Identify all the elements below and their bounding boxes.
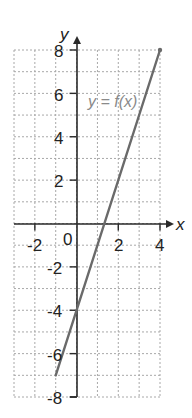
function-graph: y x 0 y = f(x) -2 2 4 8 6 4 2 -2 -4 -6 -… <box>0 0 192 418</box>
y-tick-label: 8 <box>54 42 63 61</box>
x-tick-label: -2 <box>27 236 42 255</box>
y-tick-label: -8 <box>47 389 62 408</box>
x-tick-label: 4 <box>155 236 164 255</box>
line-endpoint-dot <box>158 48 162 52</box>
y-tick-label: -4 <box>47 302 62 321</box>
origin-label: 0 <box>63 230 72 249</box>
y-tick-label: 4 <box>54 129 63 148</box>
y-tick-label: 2 <box>54 172 63 191</box>
y-tick-label: -6 <box>47 346 62 365</box>
y-tick-label: -2 <box>47 259 62 278</box>
y-tick-labels: 8 6 4 2 -2 -4 -6 -8 <box>47 42 63 408</box>
x-axis-label: x <box>175 215 185 234</box>
function-label: y = f(x) <box>87 93 137 110</box>
y-tick-label: 6 <box>54 86 63 105</box>
x-tick-label: 2 <box>114 236 123 255</box>
axes <box>14 38 172 397</box>
